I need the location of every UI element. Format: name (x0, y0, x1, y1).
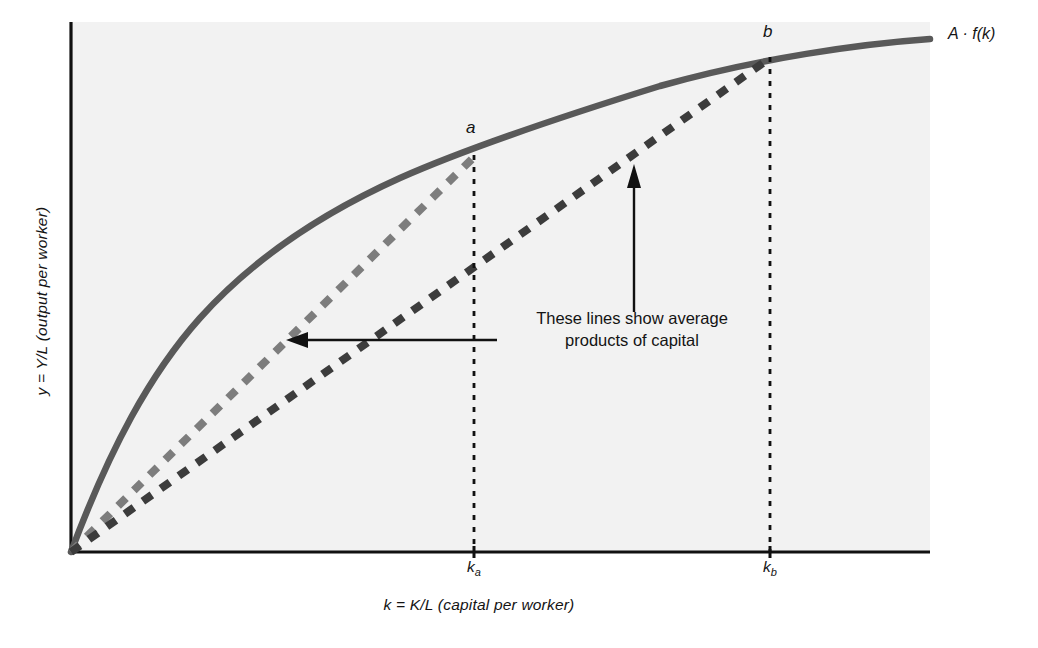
x-axis-title: k = K/L (capital per worker) (269, 596, 689, 614)
x-tick-label-kb-base: k (763, 558, 771, 575)
point-label-b: b (763, 22, 772, 42)
x-tick-label-kb: kb (740, 558, 800, 578)
x-tick-label-ka-base: k (467, 558, 475, 575)
curve-label-af-k: A · f(k) (948, 25, 995, 43)
y-axis-title: y = Y/L (output per worker) (33, 151, 51, 451)
annotation-line-1: These lines show average (497, 308, 767, 330)
production-function-curve (71, 39, 930, 552)
x-tick-label-ka: ka (444, 558, 504, 578)
average-product-ray-a (71, 157, 474, 552)
average-product-ray-b (71, 58, 770, 552)
x-tick-label-kb-sub: b (771, 566, 777, 578)
annotation-line-2: products of capital (497, 330, 767, 352)
production-function-figure: y = Y/L (output per worker) k = K/L (cap… (0, 0, 1038, 648)
point-label-a: a (466, 118, 475, 138)
annotation-arrow-left (286, 332, 497, 348)
x-tick-label-ka-sub: a (475, 566, 481, 578)
annotation-text-block: These lines show average products of cap… (497, 308, 767, 352)
annotation-arrow-up (627, 164, 641, 312)
